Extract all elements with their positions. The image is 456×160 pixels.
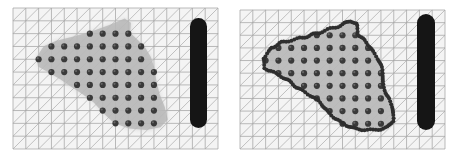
interior-particle (352, 57, 358, 63)
particle-highlight (62, 70, 64, 72)
particle-highlight (340, 58, 342, 60)
obstacle-bar (417, 14, 435, 130)
particle-highlight (139, 96, 141, 98)
interior-particle (61, 43, 67, 49)
particle-highlight (113, 57, 115, 59)
interior-particle (378, 121, 384, 127)
particle-highlight (328, 96, 330, 98)
particle-highlight (49, 70, 51, 72)
interior-particle (365, 95, 371, 101)
particle-highlight (139, 108, 141, 110)
interior-particle (301, 70, 307, 76)
particle-highlight (340, 109, 342, 111)
interior-particle (327, 83, 333, 89)
interior-particle (125, 69, 131, 75)
interior-particle (314, 57, 320, 63)
interior-particle (151, 82, 157, 88)
particle-highlight (126, 96, 128, 98)
particle-highlight (366, 84, 368, 86)
interior-particle (87, 56, 93, 62)
particle-highlight (113, 121, 115, 123)
interior-particle (100, 31, 106, 37)
interior-particle (112, 120, 118, 126)
particle-highlight (379, 109, 381, 111)
interior-particle (74, 82, 80, 88)
particle-highlight (152, 83, 154, 85)
interior-particle (112, 56, 118, 62)
interior-particle (151, 120, 157, 126)
panel-canvas-right (228, 0, 456, 160)
particle-highlight (152, 108, 154, 110)
interior-particle (112, 69, 118, 75)
interior-particle (327, 70, 333, 76)
particle-highlight (379, 96, 381, 98)
particle-highlight (366, 122, 368, 124)
particle-highlight (328, 33, 330, 35)
particle-highlight (302, 58, 304, 60)
particle-highlight (328, 58, 330, 60)
interior-particle (365, 108, 371, 114)
particle-highlight (276, 58, 278, 60)
particle-highlight (302, 84, 304, 86)
particle-highlight (353, 122, 355, 124)
boundary-particle (262, 58, 266, 62)
interior-particle (339, 32, 345, 38)
interior-particle (288, 57, 294, 63)
particle-highlight (302, 46, 304, 48)
interior-particle (314, 70, 320, 76)
particle-highlight (353, 71, 355, 73)
particle-highlight (139, 44, 141, 46)
interior-particle (327, 32, 333, 38)
interior-particle (275, 57, 281, 63)
particle-highlight (88, 83, 90, 85)
particle-highlight (302, 71, 304, 73)
interior-particle (138, 95, 144, 101)
interior-particle (48, 56, 54, 62)
particle-highlight (126, 121, 128, 123)
particle-highlight (126, 108, 128, 110)
particle-highlight (113, 108, 115, 110)
particle-highlight (75, 83, 77, 85)
interior-particle (36, 56, 42, 62)
two-panel-figure (0, 0, 456, 160)
interior-particle (301, 57, 307, 63)
interior-particle (112, 31, 118, 37)
particle-highlight (49, 57, 51, 59)
particle-highlight (88, 31, 90, 33)
interior-particle (74, 56, 80, 62)
interior-particle (339, 57, 345, 63)
interior-particle (100, 43, 106, 49)
panel-right (228, 0, 456, 160)
interior-particle (112, 95, 118, 101)
particle-highlight (340, 71, 342, 73)
interior-particle (87, 43, 93, 49)
particle-highlight (113, 44, 115, 46)
particle-highlight (113, 31, 115, 33)
interior-particle (74, 69, 80, 75)
interior-particle (352, 108, 358, 114)
particle-highlight (101, 108, 103, 110)
particle-highlight (126, 57, 128, 59)
interior-particle (138, 43, 144, 49)
particle-highlight (101, 70, 103, 72)
particle-highlight (353, 58, 355, 60)
interior-particle (339, 83, 345, 89)
interior-particle (138, 120, 144, 126)
interior-particle (87, 69, 93, 75)
interior-particle (339, 95, 345, 101)
panel-left (0, 0, 228, 160)
particle-highlight (75, 70, 77, 72)
particle-highlight (101, 57, 103, 59)
interior-particle (339, 45, 345, 51)
particle-highlight (139, 83, 141, 85)
particle-highlight (62, 44, 64, 46)
interior-particle (125, 56, 131, 62)
particle-highlight (152, 96, 154, 98)
particle-highlight (289, 71, 291, 73)
particle-highlight (366, 71, 368, 73)
particle-highlight (315, 46, 317, 48)
particle-highlight (289, 58, 291, 60)
particle-highlight (113, 83, 115, 85)
interior-particle (352, 70, 358, 76)
particle-highlight (366, 58, 368, 60)
